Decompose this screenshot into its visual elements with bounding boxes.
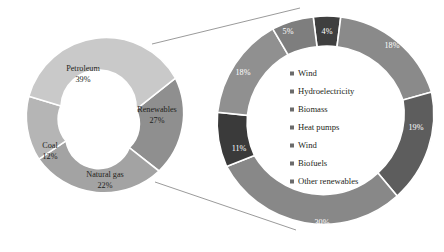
legend-label: Biofuels: [298, 158, 328, 168]
legend-bullet-icon: [290, 162, 294, 166]
legend: Wind Hydroelectricity Biomass Heat pumps…: [290, 68, 359, 186]
legend-bullet-icon: [290, 90, 294, 94]
legend-bullet-icon: [290, 108, 294, 112]
legend-bullet-icon: [290, 180, 294, 184]
legend-item-other-renewables[interactable]: Other renewables: [290, 176, 359, 186]
legend-item-biofuels[interactable]: Biofuels: [290, 158, 328, 168]
right-slice-biofuels[interactable]: [218, 29, 288, 116]
legend-label: Wind: [298, 140, 317, 150]
left-value-petroleum: 39%: [75, 75, 90, 84]
figure-container: Petroleum 39% Coal 12% Natural gas 22% R…: [0, 0, 444, 252]
right-slice-biomass[interactable]: [378, 92, 434, 196]
legend-label: Heat pumps: [298, 122, 340, 132]
legend-item-hydroelectricity[interactable]: Hydroelectricity: [290, 86, 355, 96]
legend-bullet-icon: [290, 72, 294, 76]
right-value-top-left: 5%: [283, 27, 294, 36]
legend-label: Other renewables: [298, 176, 359, 186]
left-value-coal: 12%: [42, 152, 57, 161]
legend-item-wind-1[interactable]: Wind: [290, 68, 317, 78]
legend-label: Wind: [298, 68, 317, 78]
legend-item-heat-pumps[interactable]: Heat pumps: [290, 122, 340, 132]
right-value-bottom: 30%: [314, 218, 329, 227]
left-label-petroleum: Petroleum: [66, 64, 100, 73]
left-value-natural-gas: 22%: [97, 181, 112, 190]
legend-bullet-icon: [290, 126, 294, 130]
legend-item-biomass[interactable]: Biomass: [290, 104, 328, 114]
right-value-top-right: 4%: [322, 27, 333, 36]
left-label-renewables: Renewables: [137, 105, 177, 114]
right-slice-wind-left[interactable]: [217, 112, 254, 166]
legend-item-wind-2[interactable]: Wind: [290, 140, 317, 150]
right-value-upper-right: 18%: [384, 41, 399, 50]
legend-label: Hydroelectricity: [298, 86, 355, 96]
left-value-renewables: 27%: [149, 116, 164, 125]
right-value-upper-left: 18%: [235, 68, 250, 77]
legend-label: Biomass: [298, 104, 328, 114]
legend-bullet-icon: [290, 144, 294, 148]
left-donut-chart: Petroleum 39% Coal 12% Natural gas 22% R…: [26, 38, 183, 193]
right-value-lower-left: 11%: [232, 144, 247, 153]
right-value-right: 19%: [408, 123, 423, 132]
left-label-coal: Coal: [42, 141, 58, 150]
left-label-natural-gas: Natural gas: [86, 170, 124, 179]
charts-canvas: Petroleum 39% Coal 12% Natural gas 22% R…: [0, 0, 444, 252]
